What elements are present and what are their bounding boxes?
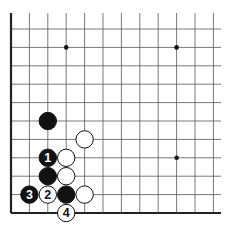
- white-stone: [57, 149, 74, 166]
- star-point: [64, 45, 69, 50]
- black-stone: [57, 186, 74, 203]
- stone-body: [39, 168, 56, 185]
- stone-body: [76, 131, 93, 148]
- go-board: 1324: [0, 0, 234, 235]
- black-stone: 3: [21, 186, 38, 203]
- stone-body: [57, 149, 74, 166]
- black-stone: 1: [39, 149, 56, 166]
- black-stone: [39, 112, 56, 129]
- white-stone: [57, 168, 74, 185]
- black-stone: [39, 168, 56, 185]
- move-number: 1: [44, 151, 51, 165]
- white-stone: [76, 131, 93, 148]
- move-number: 3: [26, 188, 33, 202]
- star-point: [174, 45, 179, 50]
- stones-layer: 1324: [21, 112, 94, 221]
- stone-body: [57, 168, 74, 185]
- stone-body: [76, 186, 93, 203]
- stone-body: [57, 186, 74, 203]
- move-number: 2: [44, 188, 51, 202]
- move-number: 4: [63, 206, 70, 220]
- white-stone: 2: [39, 186, 56, 203]
- star-point: [174, 156, 179, 161]
- stone-body: [39, 112, 56, 129]
- white-stone: [76, 186, 93, 203]
- white-stone: 4: [57, 204, 74, 221]
